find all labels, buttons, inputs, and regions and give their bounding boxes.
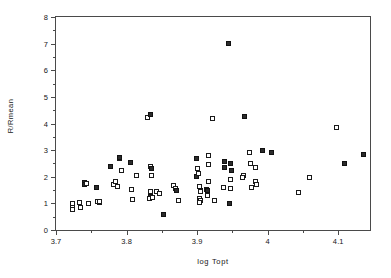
y-axis-tick — [51, 97, 56, 98]
data-point — [149, 166, 154, 171]
data-point — [194, 156, 199, 161]
data-point — [222, 165, 227, 170]
data-point — [247, 150, 252, 155]
data-point — [115, 184, 120, 189]
data-point — [229, 168, 234, 173]
data-point — [157, 191, 162, 196]
y-axis-tick-label: 4 — [44, 119, 48, 128]
y-axis-minor-tick — [53, 84, 56, 85]
x-axis-tick — [338, 230, 339, 235]
y-axis-tick-label: 5 — [44, 92, 48, 101]
x-axis-minor-tick — [162, 230, 163, 233]
data-point — [253, 165, 258, 170]
x-axis-minor-tick — [232, 230, 233, 233]
data-point — [206, 179, 211, 184]
y-axis-tick — [51, 150, 56, 151]
data-point — [296, 190, 301, 195]
data-point — [197, 200, 202, 205]
y-axis-tick-label: 1 — [44, 199, 48, 208]
x-axis-tick — [268, 230, 269, 235]
y-axis-tick-label: 6 — [44, 66, 48, 75]
x-axis-tick — [197, 230, 198, 235]
data-point — [86, 201, 91, 206]
data-point — [249, 185, 254, 190]
data-point — [242, 114, 247, 119]
data-point — [134, 173, 139, 178]
data-point — [228, 161, 233, 166]
y-axis-tick — [51, 124, 56, 125]
y-axis-tick — [51, 177, 56, 178]
data-point — [205, 188, 210, 193]
x-axis-minor-tick — [91, 230, 92, 233]
y-axis-title: R/Rmean — [6, 99, 15, 133]
data-point — [84, 181, 89, 186]
x-axis-tick-label: 3.8 — [121, 237, 132, 246]
data-point — [113, 179, 118, 184]
y-axis-tick — [51, 203, 56, 204]
data-point — [108, 164, 113, 169]
data-point — [119, 168, 124, 173]
y-axis-tick-label: 2 — [44, 172, 48, 181]
y-axis-minor-tick — [53, 57, 56, 58]
y-axis-tick — [51, 70, 56, 71]
data-point — [206, 162, 211, 167]
data-point — [148, 112, 153, 117]
y-axis-tick — [51, 44, 56, 45]
scatter-plot-figure: R/Rmean log Topt 0123456783.73.83.944.1 — [0, 0, 391, 278]
data-point — [361, 152, 366, 157]
data-point — [240, 175, 245, 180]
x-axis-tick-label: 3.9 — [192, 237, 203, 246]
data-point — [174, 188, 179, 193]
y-axis-minor-tick — [53, 163, 56, 164]
data-point — [206, 153, 211, 158]
data-point — [222, 159, 227, 164]
data-point — [128, 160, 133, 165]
data-point — [260, 148, 265, 153]
y-axis-minor-tick — [53, 190, 56, 191]
data-point — [342, 161, 347, 166]
data-point — [196, 171, 201, 176]
data-point — [221, 185, 226, 190]
data-point — [227, 201, 232, 206]
data-point — [228, 177, 233, 182]
x-axis-minor-tick — [303, 230, 304, 233]
data-point — [228, 186, 233, 191]
data-point — [248, 161, 253, 166]
data-point — [176, 198, 181, 203]
data-point — [78, 205, 83, 210]
data-point — [117, 155, 122, 160]
y-axis-minor-tick — [53, 30, 56, 31]
data-point — [161, 212, 166, 217]
data-point — [129, 187, 134, 192]
data-point — [254, 182, 259, 187]
plot-area: 0123456783.73.83.944.1 — [55, 16, 371, 231]
y-axis-tick-label: 3 — [44, 146, 48, 155]
data-point — [212, 198, 217, 203]
x-axis-tick-label: 3.7 — [51, 237, 62, 246]
y-axis-tick-label: 0 — [44, 226, 48, 235]
data-point — [149, 173, 154, 178]
data-point — [130, 197, 135, 202]
data-point — [226, 41, 231, 46]
y-axis-tick — [51, 17, 56, 18]
data-point — [334, 125, 339, 130]
data-point — [269, 150, 274, 155]
y-axis-minor-tick — [53, 110, 56, 111]
data-point — [150, 195, 155, 200]
data-point — [205, 193, 210, 198]
data-point — [210, 116, 215, 121]
data-point — [94, 185, 99, 190]
x-axis-tick-label: 4 — [266, 237, 270, 246]
data-point — [307, 175, 312, 180]
data-point — [97, 199, 102, 204]
data-point — [70, 207, 75, 212]
y-axis-minor-tick — [53, 217, 56, 218]
x-axis-title: log Topt — [197, 257, 229, 266]
y-axis-tick-label: 8 — [44, 13, 48, 22]
y-axis-minor-tick — [53, 137, 56, 138]
data-point — [198, 189, 203, 194]
x-axis-tick — [56, 230, 57, 235]
x-axis-tick-label: 4.1 — [333, 237, 344, 246]
x-axis-tick — [127, 230, 128, 235]
y-axis-tick-label: 7 — [44, 39, 48, 48]
